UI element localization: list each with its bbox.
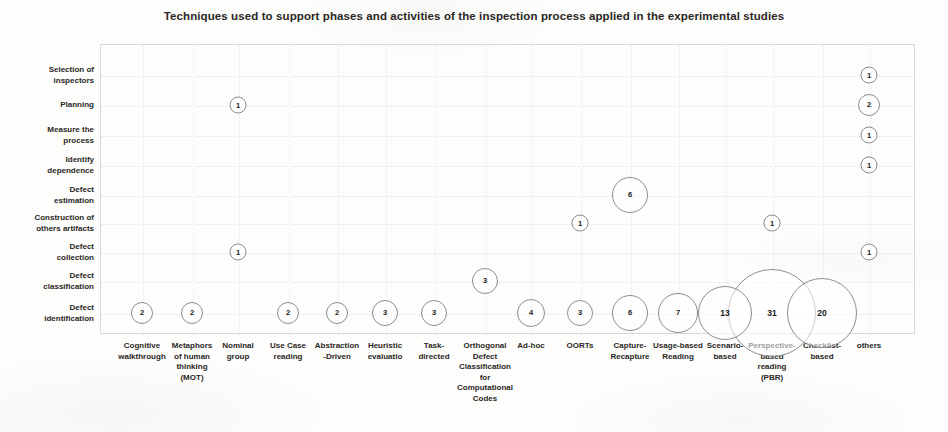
- chart-root: Techniques used to support phases and ac…: [0, 0, 948, 432]
- y-axis-tick-label: Selection ofinspectors: [2, 65, 94, 86]
- gridline-vertical: [532, 45, 533, 333]
- y-axis-tick-line: Selection of: [2, 65, 94, 76]
- y-axis-tick-label: Identifydependence: [2, 155, 94, 176]
- gridline-horizontal: [101, 136, 914, 137]
- y-axis-tick-line: dependence: [2, 165, 94, 176]
- bubble-marker: 1: [861, 157, 878, 174]
- bubble-value-label: 3: [578, 309, 582, 317]
- bubble-marker: 13: [698, 286, 752, 340]
- x-axis-tick-line: thinking: [161, 362, 223, 373]
- bubble-marker: 6: [612, 295, 648, 331]
- y-axis-tick-line: Defect: [2, 185, 94, 196]
- bubble-value-label: 31: [767, 309, 776, 318]
- bubble-marker: 2: [131, 302, 153, 324]
- y-axis-tick-label: Defectidentification: [2, 303, 94, 324]
- bubble-marker: 2: [181, 302, 203, 324]
- bubble-value-label: 1: [867, 161, 871, 169]
- x-axis-tick-line: Classification: [454, 362, 516, 373]
- y-axis-tick-line: Defect: [2, 271, 94, 282]
- x-axis-tick-label: others: [838, 341, 900, 352]
- bubble-value-label: 1: [867, 248, 871, 256]
- bubble-value-label: 1: [578, 219, 582, 227]
- bubble-value-label: 13: [720, 309, 729, 318]
- x-axis-tick-line: others: [838, 341, 900, 352]
- bubble-marker: 1: [230, 244, 247, 261]
- bubble-value-label: 3: [383, 309, 387, 317]
- bubble-marker: 3: [567, 300, 593, 326]
- x-axis-tick-line: reading: [741, 362, 803, 373]
- x-axis-tick-line: (MOT): [161, 373, 223, 384]
- y-axis-tick-line: estimation: [2, 195, 94, 206]
- y-axis-tick-line: Measure the: [2, 125, 94, 136]
- y-axis-tick-label: Defectclassification: [2, 271, 94, 292]
- gridline-horizontal: [101, 106, 914, 107]
- bubble-marker: 3: [472, 268, 498, 294]
- bubble-marker: 7: [658, 293, 698, 333]
- y-axis-tick-line: Defect: [2, 242, 94, 253]
- bubble-value-label: 1: [770, 219, 774, 227]
- gridline-horizontal: [101, 166, 914, 167]
- x-axis-tick-line: Computational: [454, 383, 516, 394]
- bubble-marker: 2: [326, 302, 348, 324]
- bubble-value-label: 2: [335, 309, 339, 317]
- gridline-vertical: [143, 45, 144, 333]
- bubble-value-label: 20: [817, 309, 826, 318]
- bubble-value-label: 7: [676, 309, 680, 317]
- bubble-marker: 1: [861, 67, 878, 84]
- y-axis-tick-line: Identify: [2, 155, 94, 166]
- bubble-marker: 3: [372, 300, 398, 326]
- y-axis-tick-line: Defect: [2, 303, 94, 314]
- bubble-value-label: 1: [236, 248, 240, 256]
- gridline-vertical: [435, 45, 436, 333]
- bubble-marker: 2: [277, 302, 299, 324]
- x-axis-tick-line: Defect: [454, 352, 516, 363]
- y-axis-tick-line: collection: [2, 252, 94, 263]
- bubble-value-label: 1: [236, 101, 240, 109]
- y-axis-tick-label: Planning: [2, 100, 94, 111]
- bubble-value-label: 4: [529, 309, 533, 317]
- y-axis-tick-line: classification: [2, 281, 94, 292]
- y-axis-tick-label: Defectestimation: [2, 185, 94, 206]
- gridline-vertical: [289, 45, 290, 333]
- bubble-value-label: 3: [432, 309, 436, 317]
- bubble-marker: 2: [858, 94, 880, 116]
- bubble-value-label: 2: [140, 309, 144, 317]
- gridline-vertical: [239, 45, 240, 333]
- bubble-value-label: 1: [867, 131, 871, 139]
- gridline-vertical: [870, 45, 871, 333]
- bubble-value-label: 2: [867, 101, 871, 109]
- x-axis-tick-line: based: [791, 352, 853, 363]
- gridline-horizontal: [101, 253, 914, 254]
- bubble-marker: 1: [764, 215, 781, 232]
- gridline-vertical: [338, 45, 339, 333]
- bubble-marker: 3: [421, 300, 447, 326]
- y-axis-tick-line: Construction of: [2, 213, 94, 224]
- gridline-vertical: [193, 45, 194, 333]
- y-axis-tick-line: inspectors: [2, 75, 94, 86]
- chart-title: Techniques used to support phases and ac…: [0, 10, 948, 22]
- gridline-horizontal: [101, 76, 914, 77]
- gridline-horizontal: [101, 224, 914, 225]
- gridline-vertical: [581, 45, 582, 333]
- bubble-marker: 4: [517, 299, 545, 327]
- bubble-marker: 1: [861, 244, 878, 261]
- bubble-marker: 1: [572, 215, 589, 232]
- x-axis-tick-line: (PBR): [741, 373, 803, 384]
- bubble-marker: 6: [612, 177, 648, 213]
- y-axis-tick-label: Measure theprocess: [2, 125, 94, 146]
- y-axis-tick-line: process: [2, 135, 94, 146]
- gridline-vertical: [679, 45, 680, 333]
- y-axis-tick-label: Defectcollection: [2, 242, 94, 263]
- bubble-value-label: 6: [628, 309, 632, 317]
- x-axis-tick-line: Codes: [454, 394, 516, 405]
- bubble-marker: 1: [230, 97, 247, 114]
- bubble-value-label: 6: [628, 191, 632, 199]
- gridline-horizontal: [101, 196, 914, 197]
- x-axis-tick-line: for: [454, 373, 516, 384]
- bubble-value-label: 2: [190, 309, 194, 317]
- y-axis-tick-line: Planning: [2, 100, 94, 111]
- bubble-value-label: 3: [483, 277, 487, 285]
- bubble-value-label: 2: [286, 309, 290, 317]
- bubble-marker: 20: [787, 278, 857, 348]
- y-axis-tick-label: Construction ofothers artifacts: [2, 213, 94, 234]
